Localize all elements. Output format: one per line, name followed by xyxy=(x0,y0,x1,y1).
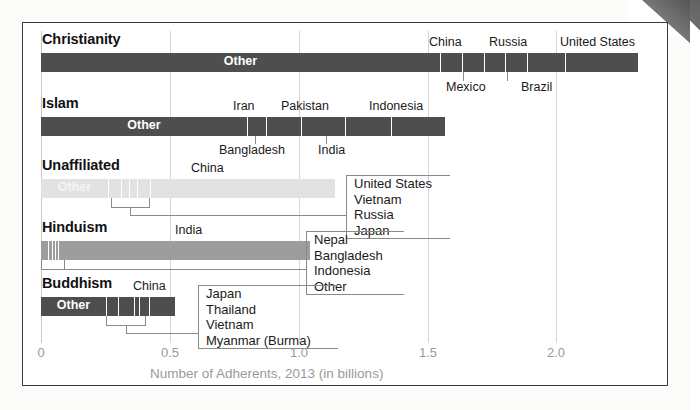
bracket-buddhism-right xyxy=(145,316,146,325)
tick-label-1-0: 1.0 xyxy=(290,345,308,360)
list-item: Thailand xyxy=(206,302,338,318)
chart-panel: Christianity China Russia United States … xyxy=(22,22,668,386)
list-item: Japan xyxy=(206,286,338,302)
segment-islam-iran xyxy=(247,117,266,136)
tick-label-2-0: 2.0 xyxy=(547,345,565,360)
bracket-hinduism-right xyxy=(64,260,65,269)
segment-label-other: Other xyxy=(41,180,108,194)
segment-christianity-russia xyxy=(484,53,505,72)
bar-islam: Other xyxy=(41,117,445,136)
segment-unaffiliated-vietnam xyxy=(121,179,129,198)
segment-unaffiliated-united-states xyxy=(108,179,121,198)
segment-unaffiliated-russia xyxy=(129,179,137,198)
callout-hinduism-india: India xyxy=(175,223,202,237)
segment-unaffiliated-other: Other xyxy=(41,179,108,198)
leader-unaffiliated-stem xyxy=(130,207,131,215)
axis-caption: Number of Adherents, 2013 (in billions) xyxy=(150,366,383,381)
segment-buddhism-myanmar xyxy=(139,297,149,316)
list-item: Indonesia xyxy=(314,263,404,279)
segment-buddhism-thailand xyxy=(118,297,134,316)
segment-christianity-united-states xyxy=(527,53,565,72)
callout-islam-bangladesh: Bangladesh xyxy=(219,143,285,157)
segment-unaffiliated-japan xyxy=(137,179,150,198)
bracket-hinduism-left xyxy=(41,260,42,269)
segment-islam-pakistan xyxy=(301,117,345,136)
segment-label-other: Other xyxy=(41,118,247,132)
bracket-buddhism-left xyxy=(106,316,107,325)
row-label-buddhism: Buddhism xyxy=(42,275,112,291)
bar-christianity: Other xyxy=(41,53,638,72)
callout-islam-iran: Iran xyxy=(233,99,255,113)
segment-buddhism-other: Other xyxy=(41,297,106,316)
leader-buddhism-stem xyxy=(126,325,127,333)
segment-christianity-remainder xyxy=(565,53,638,72)
row-label-christianity: Christianity xyxy=(42,31,121,47)
callout-christianity-united-states: United States xyxy=(560,35,635,49)
segment-christianity-brazil xyxy=(505,53,527,72)
segment-islam-bangladesh xyxy=(266,117,301,136)
list-item: Nepal xyxy=(314,232,404,248)
callout-islam-pakistan: Pakistan xyxy=(281,99,329,113)
segment-islam-india xyxy=(345,117,391,136)
segment-hinduism-nepal xyxy=(41,241,48,260)
leader-unaffiliated-run xyxy=(130,215,346,216)
row-label-hinduism: Hinduism xyxy=(42,219,107,235)
row-label-islam: Islam xyxy=(42,95,79,111)
gridline-2-0 xyxy=(556,31,557,343)
segment-buddhism-china xyxy=(149,297,175,316)
tick-label-0-5: 0.5 xyxy=(161,345,179,360)
callout-christianity-mexico: Mexico xyxy=(446,80,486,94)
bracket-unaffiliated-left xyxy=(111,198,112,207)
tick-label-0: 0 xyxy=(37,345,44,360)
list-item: United States xyxy=(354,176,450,192)
bar-unaffiliated: Other xyxy=(41,179,335,198)
callout-list-buddhism: Japan Thailand Vietnam Myanmar (Burma) xyxy=(198,285,338,349)
row-label-unaffiliated: Unaffiliated xyxy=(42,157,120,173)
segment-islam-other: Other xyxy=(41,117,247,136)
tick-label-1-5: 1.5 xyxy=(419,345,437,360)
segment-christianity-other: Other xyxy=(41,53,440,72)
segment-hinduism-india xyxy=(58,241,310,260)
segment-label-other: Other xyxy=(41,298,106,312)
callout-christianity-russia: Russia xyxy=(489,35,527,49)
list-item: Vietnam xyxy=(206,317,338,333)
segment-unaffiliated-china xyxy=(150,179,335,198)
segment-christianity-mexico xyxy=(462,53,484,72)
callout-unaffiliated-china: China xyxy=(191,161,224,175)
callout-christianity-china: China xyxy=(429,35,462,49)
list-item: Myanmar (Burma) xyxy=(206,333,338,349)
leader-hinduism-run xyxy=(53,269,306,270)
callout-list-unaffiliated: United States Vietnam Russia Japan xyxy=(346,175,450,239)
bar-buddhism: Other xyxy=(41,297,175,316)
segment-buddhism-japan xyxy=(106,297,118,316)
segment-label-other: Other xyxy=(41,54,440,68)
leader-buddhism-run xyxy=(126,333,198,334)
callout-buddhism-china: China xyxy=(133,279,166,293)
bar-hinduism xyxy=(41,241,310,260)
list-item: Russia xyxy=(354,207,450,223)
plot-area: Christianity China Russia United States … xyxy=(23,23,669,387)
callout-islam-india: India xyxy=(318,143,345,157)
bracket-unaffiliated-right xyxy=(149,198,150,207)
segment-christianity-china xyxy=(440,53,462,72)
list-item: Vietnam xyxy=(354,192,450,208)
callout-islam-indonesia: Indonesia xyxy=(369,99,423,113)
leader-christianity-brazil xyxy=(507,72,508,81)
callout-christianity-brazil: Brazil xyxy=(521,80,552,94)
segment-islam-indonesia xyxy=(391,117,445,136)
list-item: Bangladesh xyxy=(314,248,404,264)
